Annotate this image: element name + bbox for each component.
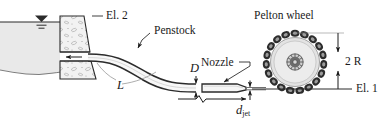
- pelton-wheel-figure: El. 2 Penstock Pelton wheel Nozzle D L 2…: [0, 0, 389, 125]
- label-length-L: L: [117, 79, 124, 92]
- pelton-wheel: [262, 30, 327, 95]
- label-radius-2R: 2 R: [345, 56, 361, 68]
- label-el1: El. 1: [356, 83, 378, 95]
- penstock-leader: [138, 33, 150, 48]
- label-d-jet: djet: [236, 104, 250, 118]
- label-diameter-D: D: [190, 62, 199, 75]
- nozzle-assembly: [202, 84, 266, 92]
- label-d-jet-subscript: jet: [242, 109, 250, 118]
- label-pelton-wheel: Pelton wheel: [254, 10, 314, 22]
- reservoir-body: [0, 22, 62, 75]
- label-penstock: Penstock: [154, 25, 196, 37]
- dam-structure: [60, 16, 96, 79]
- length-L-baseline: [178, 96, 246, 103]
- penstock-pipe: [88, 54, 196, 92]
- label-nozzle: Nozzle: [201, 57, 234, 69]
- label-el2: El. 2: [106, 10, 128, 22]
